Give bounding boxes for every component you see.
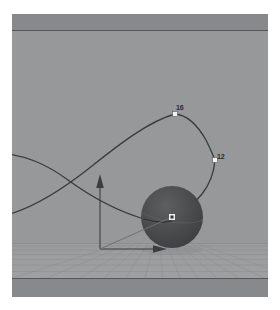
keyframe-label-16: 16 [176,104,183,111]
safe-frame-band-bottom [12,279,268,297]
safe-frame-band-top [12,14,268,30]
pivot-marker [169,214,175,220]
keyframe-label-12: 12 [217,153,224,160]
viewport-page: 16 12 [0,0,280,310]
viewport-canvas[interactable] [12,14,268,297]
keyframe-marker-16[interactable] [173,112,178,117]
3d-viewport[interactable]: 16 12 [12,14,268,297]
